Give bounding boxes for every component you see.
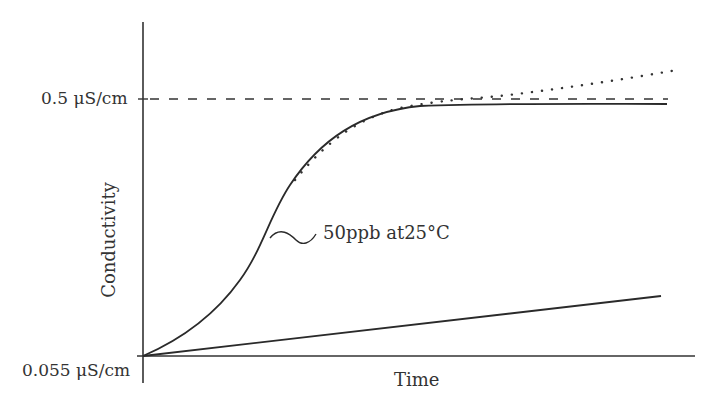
y-tick-label-bottom: 0.055 μS/cm xyxy=(22,360,130,380)
annotation-leader xyxy=(270,232,316,244)
y-tick-label-top: 0.5 μS/cm xyxy=(41,88,128,108)
y-axis-label: Conductivity xyxy=(98,182,119,298)
linear-line xyxy=(143,296,661,356)
curve-annotation: 50ppb at25°C xyxy=(323,222,450,243)
x-axis-label: Time xyxy=(394,369,439,390)
